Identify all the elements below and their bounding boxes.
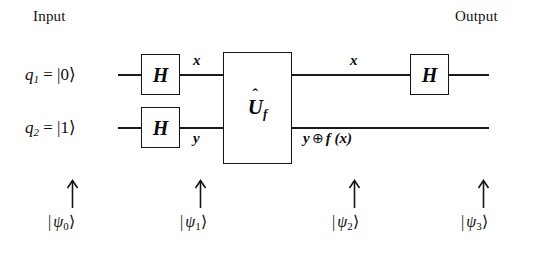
gate-label-h: H [153,65,169,85]
qubit-index-q2: 2 [34,126,40,138]
psi-symbol: ψ [185,213,195,230]
wire-q1-segment-to-oracle [179,74,224,76]
qubit-equals-q1: = [43,65,53,84]
state-marker-psi3 [477,178,490,212]
gate-label-h: H [153,118,169,138]
gate-label-uf: ̂ U f [248,97,268,120]
ket-close: ⟩ [201,213,207,230]
up-arrow-icon [477,178,490,208]
wire-annotation-x-pre-oracle: x [193,52,201,69]
gate-hadamard-q2-input[interactable]: H [141,107,180,148]
state-label-psi0: |ψ0⟩ [48,212,75,232]
wire-q2-segment-output [291,127,489,129]
qubit-label-q2: q2 = |1⟩ [25,117,76,138]
gate-hadamard-q1-input[interactable]: H [141,54,180,95]
ket-close: ⟩ [482,213,488,230]
wire-q2-segment-input [118,127,142,129]
wire-q2-segment-to-oracle [179,127,224,129]
up-arrow-icon [348,178,361,208]
output-header: Output [455,8,498,25]
state-marker-psi0 [66,178,79,212]
up-arrow-icon [194,178,207,208]
psi-symbol: ψ [337,213,347,230]
qubit-state-q2: |1⟩ [57,118,76,137]
ket-close: ⟩ [69,213,75,230]
annot-y: y [303,130,310,146]
state-label-psi1: |ψ1⟩ [180,212,207,232]
up-arrow-icon [66,178,79,208]
oracle-letter: U [248,95,263,119]
qubit-name-q1: q [25,65,34,84]
qubit-index-q1: 1 [34,73,40,85]
wire-q1-segment-to-output-h [291,74,411,76]
wire-q1-segment-input [118,74,142,76]
input-header: Input [33,8,66,25]
wire-q1-segment-output [449,74,489,76]
gate-hadamard-q1-output[interactable]: H [410,54,449,95]
quantum-circuit-diagram: Input Output q1 = |0⟩ q2 = |1⟩ H H ̂ U f [0,0,536,259]
wire-annotation-y-pre-oracle: y [193,130,200,147]
state-marker-psi2 [348,178,361,212]
state-label-psi2: |ψ2⟩ [332,212,359,232]
psi-symbol: ψ [466,213,476,230]
qubit-state-q1: |0⟩ [57,65,76,84]
ket-close: ⟩ [353,213,359,230]
qubit-name-q2: q [25,118,34,137]
gate-label-h: H [422,65,438,85]
qubit-label-q1: q1 = |0⟩ [25,64,76,85]
wire-annotation-x-post-oracle: x [350,52,358,69]
state-marker-psi1 [194,178,207,212]
oracle-subscript: f [263,106,267,121]
xor-icon: ⊕ [310,131,326,146]
state-label-psi3: |ψ3⟩ [461,212,488,232]
annot-fx: f (x) [326,130,352,146]
wire-annotation-y-xor-fx: y⊕f (x) [303,130,352,147]
gate-oracle-uf[interactable]: ̂ U f [223,52,292,164]
psi-symbol: ψ [53,213,63,230]
qubit-equals-q2: = [43,118,53,137]
